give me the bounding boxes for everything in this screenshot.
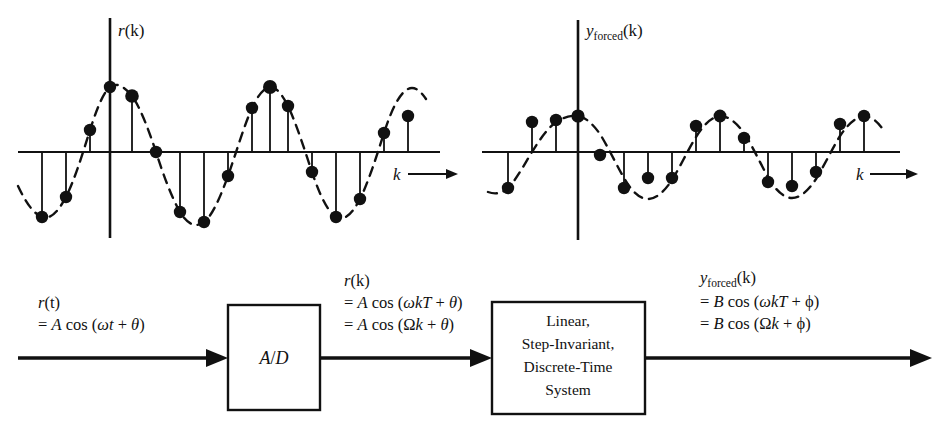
input-sampled-signal-plot: r(k) k (0, 0, 470, 250)
left-plot-xlabel: k (393, 165, 401, 184)
input-signal-equation: = A cos (ωt + θ) (38, 315, 145, 334)
left-plot-envelope-curve (18, 85, 426, 225)
figure-root: r(k) k (0, 0, 941, 429)
block-diagram: r(t) = A cos (ωt + θ) A/D r(k) = A cos (… (0, 250, 941, 429)
left-plot-ylabel-arg: (k) (125, 21, 145, 40)
right-plot-ylabel: yforced(k) (584, 21, 643, 42)
sampled-signal-equation-2: = A cos (Ωk + θ) (344, 315, 454, 334)
arrow-system-output (645, 349, 932, 367)
left-plot-ylabel: r(k) (118, 21, 144, 40)
discrete-system-label-line-4: System (545, 381, 591, 398)
input-signal-symbol: r(t) (38, 293, 60, 312)
right-plot-x-arrow-icon (870, 169, 918, 179)
left-plot-x-arrow-icon (408, 169, 458, 179)
arrow-ad-to-system (320, 349, 492, 367)
right-plot-ylabel-symbol: y (584, 21, 594, 40)
right-plot-xlabel: k (856, 165, 864, 184)
ad-converter-label: A/D (258, 348, 288, 368)
output-signal-equation-1: = B cos (ωkT + ϕ) (700, 292, 819, 311)
right-plot-ylabel-arg: (k) (623, 21, 643, 40)
discrete-system-label-line-1: Linear, (546, 312, 590, 329)
output-signal-symbol: yforced(k) (698, 268, 756, 289)
arrow-input-to-ad (18, 349, 228, 367)
sampled-signal-equation-1: = A cos (ωkT + θ) (344, 293, 463, 312)
discrete-system-label-line-3: Discrete-Time (524, 358, 613, 375)
left-plot-sample-markers (36, 80, 414, 228)
right-plot-ylabel-subscript: forced (594, 30, 624, 42)
discrete-system-label-line-2: Step-Invariant, (522, 335, 615, 352)
right-plot-envelope-curve (488, 116, 882, 199)
sampled-signal-symbol: r(k) (344, 271, 370, 290)
output-forced-response-plot: yforced(k) k (470, 0, 941, 250)
output-signal-equation-2: = B cos (Ωk + ϕ) (700, 314, 811, 333)
